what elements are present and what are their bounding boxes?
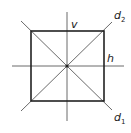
label-d1: d1 [114, 111, 125, 126]
label-d2-sub: 2 [121, 16, 125, 24]
center-point [65, 64, 68, 67]
label-d1-sub: 1 [121, 118, 125, 126]
label-h: h [107, 52, 114, 65]
label-d2: d2 [114, 9, 125, 24]
label-v: v [71, 18, 78, 31]
square-symmetry-diagram: v h d2 d1 [0, 0, 131, 133]
